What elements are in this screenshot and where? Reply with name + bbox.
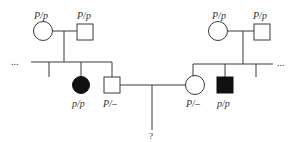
right-grandfather-genotype: P/p [252, 10, 267, 21]
right-grandmother-genotype: P/p [211, 10, 226, 21]
right-affected-male-square [217, 77, 233, 93]
right-grandmother-circle [209, 22, 228, 41]
left-grandmother-genotype: P/p [33, 10, 48, 21]
left-grandmother-circle [34, 22, 53, 41]
left-ellipsis: ... [11, 56, 19, 67]
father-square [104, 77, 120, 93]
right-affected-male-genotype: p/p [216, 98, 230, 109]
left-grandfather-genotype: P/p [76, 10, 91, 21]
mother-circle [186, 76, 205, 95]
right-ellipsis: ... [277, 57, 285, 68]
left-grandfather-square [77, 24, 93, 40]
left-affected-female-genotype: p/p [71, 98, 85, 109]
left-affected-female-circle [73, 77, 90, 94]
pedigree-diagram: P/p P/p ... p/p P/– ? P/p P/p ... P/– p/… [0, 0, 298, 142]
right-grandfather-square [254, 24, 270, 40]
offspring-question-mark: ? [149, 131, 153, 141]
father-genotype: P/– [102, 98, 118, 109]
mother-genotype: P/– [185, 98, 201, 109]
